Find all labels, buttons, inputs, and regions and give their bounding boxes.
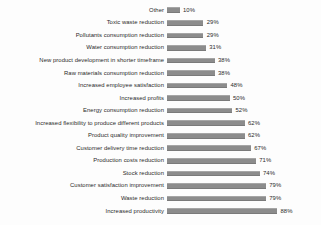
bar-row: Product quality improvement62%: [0, 129, 321, 142]
bar: [167, 95, 230, 101]
category-label: Increased employee satisfaction: [0, 82, 167, 89]
category-label: Increased flexibility to produce differe…: [0, 120, 167, 127]
category-label: Increased productivity: [0, 208, 167, 215]
category-label: Production costs reduction: [0, 157, 167, 164]
category-label: Increased profits: [0, 95, 167, 102]
bar: [167, 171, 260, 177]
bar-row: Toxic waste reduction29%: [0, 17, 321, 30]
bar-zone: 38%: [167, 67, 321, 80]
category-label: Pollutants consumption reduction: [0, 32, 167, 39]
category-label: Other: [0, 7, 167, 14]
bar-value-label: 74%: [263, 170, 275, 177]
bar-value-label: 29%: [207, 19, 219, 26]
bar-row: New product development in shorter timef…: [0, 54, 321, 67]
category-label: New product development in shorter timef…: [0, 57, 167, 64]
bar-row: Waste reduction79%: [0, 192, 321, 205]
bar-value-label: 71%: [259, 157, 271, 164]
bar: [167, 70, 215, 76]
bar-zone: 62%: [167, 117, 321, 130]
bar-zone: 31%: [167, 42, 321, 55]
category-label: Energy consumption reduction: [0, 107, 167, 114]
category-label: Customer satisfaction improvement: [0, 182, 167, 189]
bar-zone: 79%: [167, 180, 321, 193]
bar-value-label: 79%: [269, 182, 281, 189]
bar-zone: 29%: [167, 17, 321, 30]
bar-zone: 50%: [167, 92, 321, 105]
bar-row: Other10%: [0, 4, 321, 17]
category-label: Customer delivery time reduction: [0, 145, 167, 152]
bar-row: Energy consumption reduction52%: [0, 104, 321, 117]
bar-zone: 71%: [167, 155, 321, 168]
bar-row: Increased productivity88%: [0, 205, 321, 218]
bar-zone: 74%: [167, 167, 321, 180]
bar-value-label: 31%: [209, 44, 221, 51]
bar: [167, 20, 203, 26]
bar-chart: Other10%Toxic waste reduction29%Pollutan…: [0, 0, 321, 225]
bar-value-label: 67%: [254, 145, 266, 152]
bar: [167, 83, 227, 89]
bar-zone: 29%: [167, 29, 321, 42]
bar: [167, 33, 203, 39]
bar-value-label: 10%: [183, 7, 195, 14]
category-label: Raw materials consumption reduction: [0, 70, 167, 77]
bar-row: Customer satisfaction improvement79%: [0, 180, 321, 193]
bar-row: Production costs reduction71%: [0, 155, 321, 168]
bar: [167, 196, 266, 202]
bar-row: Pollutants consumption reduction29%: [0, 29, 321, 42]
bar: [167, 158, 256, 164]
bar-row: Customer delivery time reduction67%: [0, 142, 321, 155]
bar: [167, 7, 180, 13]
bar-row: Increased flexibility to produce differe…: [0, 117, 321, 130]
bar: [167, 183, 266, 189]
bar-row: Stock reduction74%: [0, 167, 321, 180]
bar: [167, 45, 206, 51]
bar-zone: 38%: [167, 54, 321, 67]
bar-value-label: 52%: [236, 107, 248, 114]
bar-value-label: 50%: [233, 95, 245, 102]
bar: [167, 208, 277, 214]
bar-value-label: 38%: [218, 70, 230, 77]
bar-value-label: 62%: [248, 120, 260, 127]
category-label: Waste reduction: [0, 195, 167, 202]
bar-value-label: 29%: [207, 32, 219, 39]
bar-value-label: 48%: [231, 82, 243, 89]
bar-row: Raw materials consumption reduction38%: [0, 67, 321, 80]
bar-value-label: 38%: [218, 57, 230, 64]
bar-zone: 88%: [167, 205, 321, 218]
bar: [167, 145, 251, 151]
bar-value-label: 79%: [269, 195, 281, 202]
bar-zone: 52%: [167, 104, 321, 117]
bar-zone: 10%: [167, 4, 321, 17]
bar-zone: 62%: [167, 129, 321, 142]
bar-value-label: 62%: [248, 132, 260, 139]
bar-value-label: 88%: [281, 208, 293, 215]
category-label: Product quality improvement: [0, 132, 167, 139]
bar-row: Water consumption reduction31%: [0, 42, 321, 55]
bar: [167, 58, 215, 64]
bar-row: Increased profits50%: [0, 92, 321, 105]
bar-zone: 79%: [167, 192, 321, 205]
bar-zone: 48%: [167, 79, 321, 92]
plot-area: Other10%Toxic waste reduction29%Pollutan…: [0, 4, 321, 221]
bar-row: Increased employee satisfaction48%: [0, 79, 321, 92]
bar-zone: 67%: [167, 142, 321, 155]
bar: [167, 120, 245, 126]
category-label: Toxic waste reduction: [0, 19, 167, 26]
bar: [167, 108, 232, 114]
bar: [167, 133, 245, 139]
category-label: Stock reduction: [0, 170, 167, 177]
category-label: Water consumption reduction: [0, 44, 167, 51]
